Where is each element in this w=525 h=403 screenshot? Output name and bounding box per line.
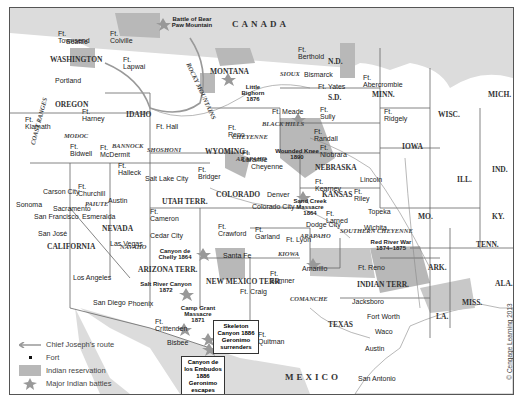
- city-label: Salt Lake City: [145, 175, 188, 182]
- fort-label: Ft. Abercrombie: [363, 74, 407, 88]
- fort-label: Ft. Kearney: [315, 178, 349, 192]
- state-label: ILL.: [457, 176, 472, 184]
- state-label: LA.: [436, 313, 448, 321]
- legend-reservation: Indian reservation: [18, 364, 114, 377]
- city-label: Fort Worth: [367, 313, 400, 320]
- tribe-label: SIOUX: [280, 71, 300, 78]
- state-label: NEBRASKA: [315, 164, 357, 172]
- state-label: MINN.: [372, 91, 395, 99]
- city-label: Sonoma: [16, 201, 42, 208]
- city-label: Phoenix: [128, 300, 153, 307]
- city-label: Colorado City: [252, 203, 294, 210]
- fort-label: Ft. Randall: [314, 128, 344, 142]
- map-frame: CANADA MEXICO WASHINGTON OREGON IDAHO MO…: [9, 7, 514, 395]
- state-label: MICH.: [488, 91, 511, 99]
- fort-label: Ft. Berthold: [298, 46, 334, 60]
- state-label: WISC.: [438, 111, 460, 119]
- fort-label: Ft. Larned: [326, 210, 356, 224]
- state-label: NEVADA: [102, 225, 133, 233]
- fort-label: Ft. Crawford: [218, 223, 254, 237]
- battle-label: Wounded Knee 1890: [272, 148, 322, 160]
- city-label: San Antonio: [358, 375, 396, 382]
- fort-label: Ft. Bridger: [198, 166, 228, 180]
- city-label: Austin: [108, 197, 127, 204]
- fort-label: Ft. Lapwai: [123, 56, 153, 70]
- fort-label: Ft. Bidwell: [70, 143, 100, 157]
- tribe-label: KIOWA: [278, 251, 299, 258]
- fort-label: Ft. Ridgely: [384, 108, 416, 122]
- fort-label: Ft. McDermit: [100, 144, 140, 158]
- fort-label: Ft. Craig: [240, 288, 267, 295]
- state-label: IOWA: [402, 143, 423, 151]
- fort-label: Ft. Riley: [354, 188, 378, 202]
- canada-label: CANADA: [232, 20, 289, 29]
- fort-label: Ft. Harney: [82, 108, 112, 122]
- legend: Chief Joseph's route Fort Indian reserva…: [18, 338, 114, 390]
- city-label: Jacksboro: [352, 298, 384, 305]
- city-label: San José: [38, 230, 67, 237]
- city-label: Carson City: [43, 188, 80, 195]
- state-label: IND.: [492, 166, 508, 174]
- state-label: MISS.: [462, 299, 482, 307]
- city-label: Lincoln: [360, 176, 382, 183]
- battle-label: Little Bighorn 1876: [238, 84, 268, 102]
- city-label: Denver: [267, 191, 290, 198]
- state-label: KY.: [492, 213, 504, 221]
- city-label: Cheyenne: [251, 163, 283, 170]
- fort-label: Ft. Quitman: [258, 331, 294, 345]
- city-label: Esmeralda: [82, 213, 115, 220]
- state-label: WASHINGTON: [50, 56, 102, 64]
- skeleton-canyon-box: Skeleton Canyon 1886 Geronimo surrenders: [213, 320, 259, 354]
- fort-label: Ft. Townsend: [58, 30, 92, 44]
- fort-label: Ft. Yates: [318, 83, 345, 90]
- fort-label: Ft. Cameron: [150, 208, 186, 222]
- state-label: ARIZONA TERR.: [138, 266, 197, 274]
- city-label: Los Angeles: [73, 274, 111, 281]
- fort-label: Ft. Laramie: [242, 149, 276, 163]
- battle-label: Red River War 1874–1875: [370, 239, 412, 251]
- legend-fort-label: Fort: [46, 353, 59, 362]
- city-label: Wichita: [364, 224, 387, 231]
- black-hills-label: BLACK HILLS: [262, 121, 304, 128]
- tribe-label: MODOC: [64, 133, 88, 140]
- battle-label: Sand Creek Massacre 1864: [292, 198, 328, 216]
- fort-label: Ft. Reno: [228, 124, 252, 138]
- legend-fort: Fort: [18, 351, 114, 364]
- battle-star-icon: [18, 378, 42, 390]
- tribe-label: COMANCHE: [290, 296, 328, 303]
- embudos-box: Canyon de los Embudos 1886 Geronimo esca…: [181, 356, 225, 395]
- route-arrow-icon: [18, 342, 42, 348]
- city-label: Bisbee: [167, 339, 188, 346]
- fort-label: Ft. Lyon: [286, 236, 311, 243]
- city-label: San Francisco: [34, 213, 79, 220]
- copyright: © Cengage Learning 2013: [505, 303, 512, 379]
- city-label: San Diego: [93, 299, 126, 306]
- legend-battles-label: Major Indian battles: [46, 379, 111, 388]
- legend-route-label: Chief Joseph's route: [46, 340, 114, 349]
- legend-route: Chief Joseph's route: [18, 338, 114, 351]
- battle-label: Battle of Bear Paw Mountain: [170, 16, 214, 28]
- city-label: Amarillo: [302, 265, 327, 272]
- fort-label: Ft. Hall: [156, 123, 180, 130]
- city-label: Topeka: [368, 208, 391, 215]
- fort-label: Ft. Sumner: [270, 270, 300, 284]
- state-label: UTAH TERR.: [162, 198, 208, 206]
- state-label: TEXAS: [328, 321, 353, 329]
- fort-label: Ft. Niobrara: [320, 144, 356, 158]
- city-label: Austin: [365, 345, 384, 352]
- state-label: COLORADO: [216, 191, 260, 199]
- state-label: CALIFORNIA: [47, 243, 95, 251]
- fort-label: Ft. Churchill: [78, 183, 114, 197]
- city-label: Waco: [375, 328, 393, 335]
- state-label: ARK.: [428, 264, 447, 272]
- fort-label: Ft. Sully: [320, 106, 344, 120]
- state-label: MO.: [418, 213, 433, 221]
- battle-label: Camp Grant Massacre 1871: [180, 305, 216, 323]
- fort-label: Ft. Meade: [272, 108, 304, 115]
- city-label: Santa Fe: [223, 252, 251, 259]
- battle-label: Salt River Canyon 1872: [138, 281, 194, 293]
- fort-label: Ft. Klamath: [25, 116, 59, 130]
- state-label: INDIAN TERR.: [357, 281, 409, 289]
- reservation-swatch-icon: [18, 365, 42, 376]
- fort-label: Ft. Colville: [110, 30, 140, 44]
